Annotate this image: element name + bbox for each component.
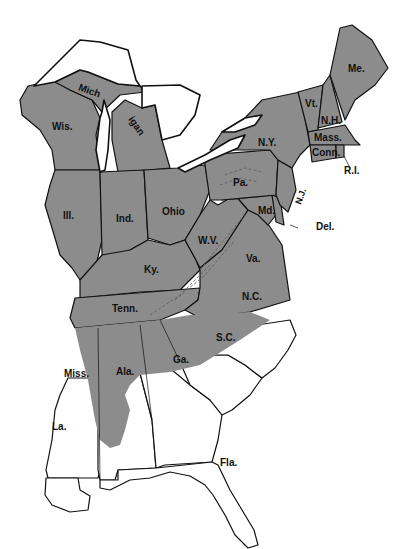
label-conn: Conn. <box>312 148 340 158</box>
label-ala: Ala. <box>116 367 134 377</box>
label-sc: S.C. <box>216 333 235 343</box>
state-fla <box>100 462 258 548</box>
eastern-us-map <box>0 0 412 549</box>
label-nh: N.H. <box>321 116 341 126</box>
lake-michigan <box>96 100 110 172</box>
state-ill <box>45 170 102 280</box>
label-va: Va. <box>246 254 260 264</box>
label-ny: N.Y. <box>258 138 276 148</box>
label-wv: W.V. <box>198 236 218 246</box>
label-fla: Fla. <box>220 458 237 468</box>
label-ill: Ill. <box>63 211 74 221</box>
state-la <box>45 478 90 512</box>
label-ri: R.I. <box>344 166 360 176</box>
label-me: Me. <box>348 64 365 74</box>
label-miss: Miss. <box>64 369 89 379</box>
label-tenn: Tenn. <box>112 304 138 314</box>
label-vt: Vt. <box>305 99 318 109</box>
label-md: Md. <box>258 206 275 216</box>
label-ky: Ky. <box>144 265 159 275</box>
label-nc: N.C. <box>242 292 262 302</box>
label-ind: Ind. <box>116 214 134 224</box>
label-del: Del. <box>316 222 334 232</box>
label-ohio: Ohio <box>162 207 185 217</box>
label-ga: Ga. <box>173 355 189 365</box>
label-mass: Mass. <box>314 133 342 143</box>
label-wis: Wis. <box>52 122 72 132</box>
label-pa: Pa. <box>233 178 248 188</box>
label-la: La. <box>52 422 66 432</box>
